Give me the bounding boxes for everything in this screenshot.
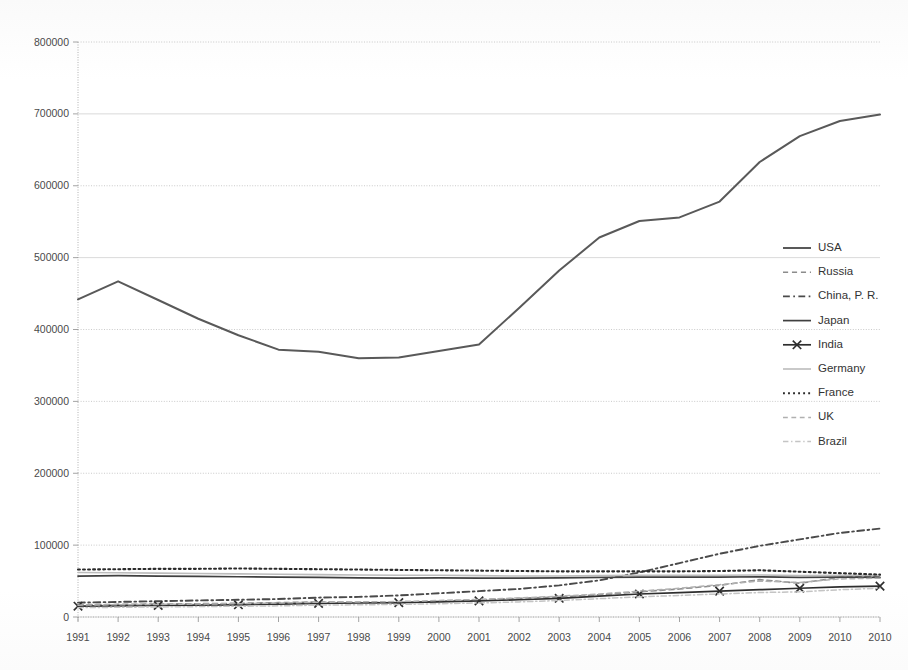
x-tick-label: 1993	[147, 631, 171, 643]
chart-canvas: 0100000200000300000400000500000600000700…	[0, 0, 908, 670]
legend-item-uk[interactable]: UK	[783, 410, 834, 422]
series-line-china-p-r	[78, 529, 880, 603]
legend-label: Russia	[818, 265, 854, 277]
y-tick-label: 500000	[34, 251, 69, 263]
y-tick-label: 800000	[34, 36, 69, 48]
series-layer	[74, 115, 884, 611]
series-line-germany	[78, 572, 880, 576]
x-tick-label: 2000	[427, 631, 451, 643]
y-axis: 0100000200000300000400000500000600000700…	[34, 36, 78, 623]
x-tick-label: 2009	[788, 631, 812, 643]
x-axis: 1991199219931994199519961997199819992000…	[66, 617, 892, 643]
x-tick-label: 1998	[347, 631, 371, 643]
y-tick-label: 400000	[34, 323, 69, 335]
legend-label: UK	[818, 410, 834, 422]
y-tick-label: 300000	[34, 395, 69, 407]
x-tick-label: 2010	[828, 631, 852, 643]
x-tick-label: 1995	[227, 631, 251, 643]
y-tick-label: 100000	[34, 539, 69, 551]
x-tick-label: 2002	[507, 631, 531, 643]
y-tick-label: 200000	[34, 467, 69, 479]
legend-item-france[interactable]: France	[783, 386, 854, 398]
legend-item-germany[interactable]: Germany	[783, 362, 866, 374]
x-tick-label: 2010	[868, 631, 892, 643]
legend-item-china-p-r[interactable]: China, P. R.	[783, 289, 879, 301]
y-tick-label: 700000	[34, 107, 69, 119]
legend-label: USA	[818, 241, 842, 253]
y-tick-label: 0	[63, 611, 69, 623]
legend-item-usa[interactable]: USA	[783, 241, 842, 253]
x-tick-label: 2001	[467, 631, 491, 643]
legend-label: Brazil	[818, 435, 847, 447]
legend-item-russia[interactable]: Russia	[783, 265, 854, 277]
y-tick-label: 600000	[34, 179, 69, 191]
x-tick-label: 2004	[588, 631, 612, 643]
gridlines	[78, 42, 880, 617]
legend-label: India	[818, 338, 844, 350]
x-tick-label: 1997	[307, 631, 331, 643]
legend-item-brazil[interactable]: Brazil	[783, 435, 847, 447]
legend-item-india[interactable]: India	[783, 338, 844, 350]
x-tick-label: 2005	[628, 631, 652, 643]
x-tick-label: 2006	[668, 631, 692, 643]
x-tick-label: 2008	[748, 631, 772, 643]
legend-label: France	[818, 386, 854, 398]
line-chart: 0100000200000300000400000500000600000700…	[0, 0, 908, 670]
x-tick-label: 2003	[548, 631, 572, 643]
chart-legend: USARussiaChina, P. R.JapanIndiaGermanyFr…	[783, 241, 879, 447]
legend-label: Japan	[818, 314, 849, 326]
legend-label: Germany	[818, 362, 866, 374]
legend-label: China, P. R.	[818, 289, 879, 301]
series-line-usa	[78, 115, 880, 359]
legend-item-japan[interactable]: Japan	[783, 314, 849, 326]
x-tick-label: 1996	[267, 631, 291, 643]
x-tick-label: 1999	[387, 631, 411, 643]
x-tick-label: 1991	[66, 631, 90, 643]
x-tick-label: 1992	[106, 631, 130, 643]
x-tick-label: 2007	[708, 631, 732, 643]
x-tick-label: 1994	[187, 631, 211, 643]
